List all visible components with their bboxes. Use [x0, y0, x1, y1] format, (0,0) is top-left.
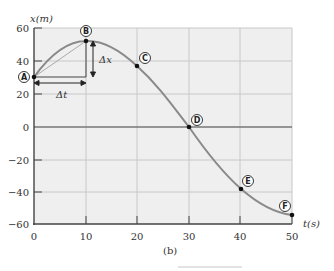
point-label-b: B — [83, 27, 89, 36]
figure-caption: (b) — [163, 245, 177, 256]
xtick-label: 40 — [234, 231, 247, 242]
delta-t-label: Δt — [55, 89, 68, 100]
position-time-chart: 60 40 20 0 −20 −40 −60 0 10 20 30 40 50 … — [0, 0, 334, 271]
point-label-d: D — [194, 116, 201, 125]
xtick-label: 20 — [131, 231, 144, 242]
x-axis-label: t(s) — [303, 218, 320, 229]
ytick-label: 60 — [16, 23, 29, 34]
xtick-label: 10 — [80, 231, 93, 242]
point-f — [290, 213, 295, 218]
ytick-label: −60 — [8, 219, 29, 230]
xtick-label: 0 — [31, 231, 37, 242]
point-label-e: E — [245, 177, 250, 186]
point-label-f: F — [282, 202, 287, 211]
delta-x-label: Δx — [98, 54, 112, 65]
point-e — [239, 187, 244, 192]
ytick-label: 40 — [16, 56, 29, 67]
ytick-label: −20 — [8, 155, 29, 166]
point-label-a: A — [21, 73, 28, 82]
point-c — [135, 64, 140, 69]
ytick-label: 0 — [23, 122, 29, 133]
point-b — [84, 39, 89, 44]
point-a — [32, 75, 37, 80]
xtick-label: 30 — [183, 231, 196, 242]
point-d — [187, 125, 192, 130]
plot-area — [34, 28, 292, 224]
y-axis-label: x(m) — [30, 13, 53, 24]
ytick-label: 20 — [16, 89, 29, 100]
ytick-label: −40 — [8, 187, 29, 198]
decorative-bar — [178, 266, 242, 268]
xtick-label: 50 — [286, 231, 299, 242]
point-label-c: C — [142, 54, 148, 63]
